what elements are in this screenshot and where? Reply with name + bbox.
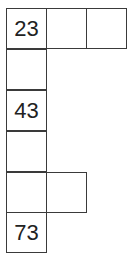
grid-cell-r3-c0[interactable] (6, 131, 47, 172)
number-grid-puzzle: 23 43 73 (0, 0, 133, 270)
grid-cell-r5-c0: 73 (6, 212, 47, 253)
grid-cell-r4-c0[interactable] (6, 172, 47, 213)
grid-cell-r2-c0: 43 (6, 90, 47, 131)
grid-cell-r1-c0[interactable] (6, 49, 47, 90)
grid-cell-r0-c0: 23 (6, 8, 47, 49)
grid-cell-r0-c2[interactable] (86, 8, 127, 49)
grid-cell-r4-c1[interactable] (46, 172, 87, 213)
grid-cell-r0-c1[interactable] (46, 8, 87, 49)
